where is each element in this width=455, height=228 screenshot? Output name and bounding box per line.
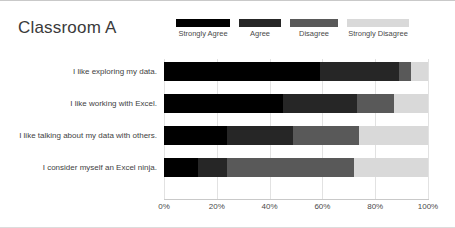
category-axis-labels: I like exploring my data.I like working …	[0, 59, 455, 199]
chart-title: Classroom A	[18, 18, 117, 38]
legend-label: Strongly Disagree	[348, 29, 408, 38]
legend-label: Disagree	[299, 29, 329, 38]
legend-item[interactable]: Disagree	[290, 19, 338, 38]
x-tick-label: 40%	[262, 202, 278, 211]
category-label: I like talking about my data with others…	[0, 126, 157, 145]
category-label: I like exploring my data.	[0, 62, 157, 81]
x-tick-label: 20%	[209, 202, 225, 211]
category-label: I consider myself an Excel ninja.	[0, 158, 157, 177]
legend-label: Strongly Agree	[178, 29, 227, 38]
chart-legend: Strongly AgreeAgreeDisagreeStrongly Disa…	[176, 19, 409, 38]
legend-swatch-icon	[290, 19, 338, 27]
x-tick-label: 100%	[418, 202, 438, 211]
legend-swatch-icon	[347, 19, 409, 27]
category-label: I like working with Excel.	[0, 94, 157, 113]
x-axis-tick-labels: 0%20%40%60%80%100%	[164, 202, 428, 216]
x-tick-label: 0%	[158, 202, 170, 211]
legend-item[interactable]: Strongly Disagree	[347, 19, 409, 38]
legend-item[interactable]: Agree	[239, 19, 281, 38]
legend-swatch-icon	[176, 19, 230, 27]
chart-frame: Classroom A Strongly AgreeAgreeDisagreeS…	[0, 0, 455, 228]
legend-swatch-icon	[239, 19, 281, 27]
legend-item[interactable]: Strongly Agree	[176, 19, 230, 38]
x-tick-label: 80%	[367, 202, 383, 211]
x-tick-label: 60%	[314, 202, 330, 211]
legend-label: Agree	[250, 29, 270, 38]
x-axis-baseline	[164, 199, 429, 200]
